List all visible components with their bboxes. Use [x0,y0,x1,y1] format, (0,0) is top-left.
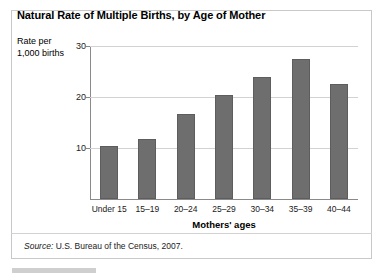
bar [177,114,195,199]
y-tick-label: 10 [76,143,86,153]
source-text: U.S. Bureau of the Census, 2007. [53,241,182,251]
source-label: Source: [24,241,53,251]
source-note: Source: U.S. Bureau of the Census, 2007. [24,241,183,251]
y-tick-label: 30 [76,41,86,51]
chart-title: Natural Rate of Multiple Births, by Age … [17,9,265,21]
source-divider [11,233,372,234]
bar [292,59,310,199]
y-tick-mark [86,148,90,149]
y-tick-label: 20 [76,92,86,102]
y-tick-mark [86,46,90,47]
x-axis-title: Mothers' ages [192,219,256,230]
x-tick-label: 15–19 [136,204,160,214]
x-tick-label: 30–34 [250,204,274,214]
y-axis-title: Rate per 1,000 births [17,36,64,59]
bar [253,77,271,199]
bottom-strip [12,268,96,273]
x-tick-label: 40–44 [327,204,351,214]
y-tick-mark [86,97,90,98]
plot-area: 102030 [90,46,358,199]
x-axis-line [90,199,358,200]
x-tick-label: 35–39 [289,204,313,214]
x-tick-label: 20–24 [174,204,198,214]
x-tick-label: Under 15 [92,204,127,214]
y-axis-title-line-2: 1,000 births [17,48,64,60]
y-axis-title-line-1: Rate per [17,36,64,48]
gridline [90,46,358,47]
x-tick-label: 25–29 [212,204,236,214]
bar [100,146,118,199]
bar [330,84,348,199]
bar [138,139,156,199]
bar [215,95,233,199]
